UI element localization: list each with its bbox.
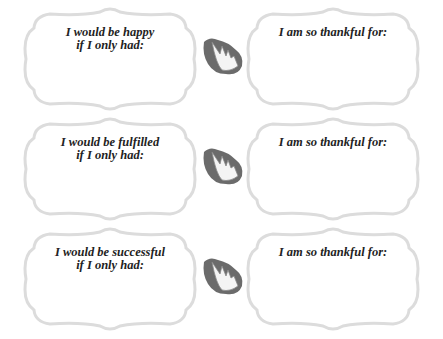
worksheet-row-2: I would be fulfilled if I only had: I am… — [0, 116, 443, 226]
wish-frame: I would be successful if I only had: — [20, 226, 200, 332]
worksheet-row-3: I would be successful if I only had: I a… — [0, 226, 443, 336]
thankful-write-area[interactable] — [261, 166, 405, 204]
pointing-hand-icon — [200, 254, 246, 298]
prompt-line-2: if I only had: — [20, 39, 200, 52]
thankful-prompt: I am so thankful for: — [243, 136, 423, 149]
wish-prompt: I would be fulfilled if I only had: — [20, 136, 200, 162]
wish-prompt: I would be successful if I only had: — [20, 246, 200, 272]
thankful-write-area[interactable] — [261, 276, 405, 314]
prompt-line-2: if I only had: — [20, 259, 200, 272]
pointing-hand-icon — [200, 34, 246, 78]
thankful-frame: I am so thankful for: — [243, 6, 423, 112]
thankful-write-area[interactable] — [261, 56, 405, 94]
thankful-prompt: I am so thankful for: — [243, 26, 423, 39]
prompt-line-2: if I only had: — [20, 149, 200, 162]
thankful-prompt: I am so thankful for: — [243, 246, 423, 259]
wish-frame: I would be fulfilled if I only had: — [20, 116, 200, 222]
pointing-hand-icon — [200, 144, 246, 188]
worksheet-row-1: I would be happy if I only had: I am so … — [0, 6, 443, 116]
wish-write-area[interactable] — [38, 166, 182, 204]
wish-write-area[interactable] — [38, 276, 182, 314]
thankful-frame: I am so thankful for: — [243, 116, 423, 222]
wish-frame: I would be happy if I only had: — [20, 6, 200, 112]
thankful-frame: I am so thankful for: — [243, 226, 423, 332]
wish-write-area[interactable] — [38, 56, 182, 94]
wish-prompt: I would be happy if I only had: — [20, 26, 200, 52]
